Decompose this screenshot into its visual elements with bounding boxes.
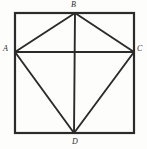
- segment-AB: [15, 13, 75, 52]
- segment-BC: [75, 13, 134, 52]
- segment-CD: [74, 52, 134, 133]
- segment-DA: [15, 52, 74, 133]
- vertex-label-b: B: [71, 1, 76, 9]
- vertex-label-d: D: [72, 138, 78, 146]
- vertex-label-a: A: [3, 45, 8, 53]
- diagonal-BD: [74, 13, 75, 133]
- vertex-label-c: C: [137, 45, 142, 53]
- figure-canvas: [0, 0, 147, 149]
- geometry-figure: A B C D: [0, 0, 147, 149]
